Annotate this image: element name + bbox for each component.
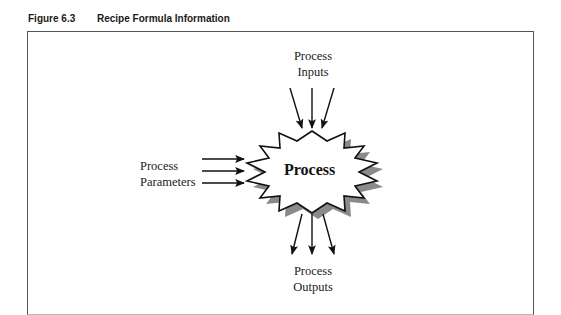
parameters-label-line2: Parameters xyxy=(140,174,196,190)
parameters-label-line1: Process xyxy=(140,158,196,174)
parameter-arrows xyxy=(202,159,244,183)
arrow-icon xyxy=(292,214,302,254)
inputs-label-line2: Inputs xyxy=(283,64,343,80)
parameters-label: Process Parameters xyxy=(140,158,196,190)
input-arrows xyxy=(290,88,334,128)
outputs-label-line2: Outputs xyxy=(283,279,343,295)
arrow-icon xyxy=(322,88,334,128)
outputs-label: Process Outputs xyxy=(283,263,343,295)
inputs-label: Process Inputs xyxy=(283,48,343,80)
output-arrows xyxy=(292,214,334,254)
inputs-label-line1: Process xyxy=(283,48,343,64)
arrow-icon xyxy=(323,214,334,254)
center-node-label: Process xyxy=(284,161,335,179)
process-diagram xyxy=(0,0,561,315)
outputs-label-line1: Process xyxy=(283,263,343,279)
arrow-icon xyxy=(290,88,302,128)
